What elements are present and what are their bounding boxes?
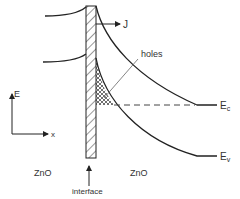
ec-sub: c [227,105,231,112]
position-axis-label: x [51,130,55,139]
left-material-label: ZnO [34,168,52,178]
band-diagram: J holes Ec Ev E x ZnO ZnO interface [0,0,240,199]
right-material-label: ZnO [130,168,148,178]
ev-sub: v [227,156,231,163]
left-conduction-band [45,7,86,16]
holes-leader-line [104,59,138,98]
current-label: J [123,19,128,30]
right-valence-band [96,58,217,156]
holes-region [96,58,114,105]
energy-axis-label: E [14,89,20,99]
holes-label: holes [141,49,163,59]
interface-label: interface [72,187,103,196]
valence-band-label: Ev [220,151,231,163]
conduction-band-label: Ec [220,100,231,112]
interface-barrier [86,6,96,158]
left-valence-band [43,54,86,62]
